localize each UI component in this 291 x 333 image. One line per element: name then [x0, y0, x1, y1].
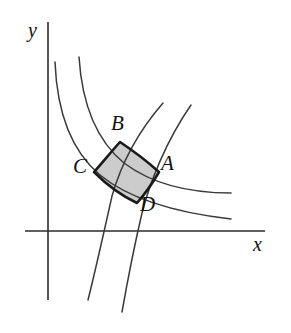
point-label-b: B [111, 113, 124, 134]
y-axis-label: y [28, 20, 37, 40]
curve-outer-orthogonal [122, 105, 191, 312]
point-label-a: A [161, 153, 174, 174]
point-label-c: C [73, 156, 87, 177]
figure-canvas [0, 0, 291, 333]
x-axis-label: x [253, 234, 262, 254]
point-label-d: D [140, 194, 155, 215]
math-figure: y x B A C D [0, 0, 291, 333]
